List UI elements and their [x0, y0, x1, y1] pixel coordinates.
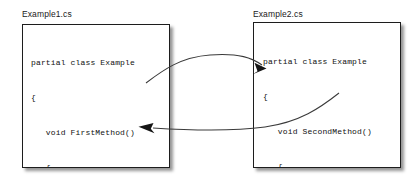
code-line: void SecondMethod() — [263, 126, 372, 138]
file-label-example1: Example1.cs — [22, 9, 72, 19]
code-line: void FirstMethod() — [31, 127, 140, 139]
code-listing-example2: partial class Example { void SecondMetho… — [263, 33, 372, 168]
file-label-example2: Example2.cs — [253, 9, 303, 19]
code-line: partial class Example — [31, 57, 140, 69]
code-line: { — [263, 161, 372, 168]
code-line: partial class Example — [263, 56, 372, 68]
code-line: { — [31, 162, 140, 168]
code-listing-example1: partial class Example { void FirstMethod… — [31, 34, 140, 168]
code-box-example1: partial class Example { void FirstMethod… — [22, 24, 170, 168]
code-box-example2: partial class Example { void SecondMetho… — [253, 22, 401, 168]
diagram-canvas: Example1.cs Example2.cs partial class Ex… — [0, 0, 417, 184]
code-line: { — [263, 91, 372, 103]
code-line: { — [31, 92, 140, 104]
